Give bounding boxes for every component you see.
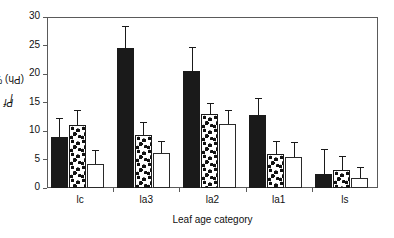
y-tick-label: 20 bbox=[29, 67, 40, 79]
error-bar-ls-solid-black bbox=[324, 149, 325, 174]
y-tick-label: 25 bbox=[29, 39, 40, 51]
x-axis-tick bbox=[246, 188, 247, 192]
error-bar-la3-open-white bbox=[161, 141, 162, 152]
error-bar-lc-dotted bbox=[77, 110, 78, 125]
error-bar-cap-la2-dotted bbox=[207, 103, 214, 104]
error-bar-cap-la1-open-white bbox=[291, 142, 298, 143]
y-axis-title-text: Pfl(Ph) % bbox=[3, 64, 17, 106]
y-tick-label: 15 bbox=[29, 96, 40, 108]
bar-ls-solid-black bbox=[315, 174, 332, 188]
error-bar-cap-la3-dotted bbox=[140, 122, 147, 123]
error-bar-cap-lc-open-white bbox=[92, 150, 99, 151]
bar-lc-open-white bbox=[87, 164, 104, 188]
error-bar-cap-la3-open-white bbox=[158, 141, 165, 142]
bar-la3-solid-black bbox=[117, 48, 134, 188]
error-bar-ls-open-white bbox=[360, 167, 361, 177]
bar-la1-dotted bbox=[267, 154, 284, 188]
x-axis-label-ls: ls bbox=[341, 194, 348, 205]
error-bar-cap-la1-solid-black bbox=[255, 98, 262, 99]
y-tick-label: 5 bbox=[34, 153, 40, 165]
x-axis-title: Leaf age category bbox=[47, 214, 378, 225]
error-bar-cap-la3-solid-black bbox=[122, 26, 129, 27]
bar-la2-dotted bbox=[201, 114, 218, 188]
error-bar-lc-solid-black bbox=[59, 118, 60, 137]
error-bar-cap-la1-dotted bbox=[273, 141, 280, 142]
error-bar-cap-ls-open-white bbox=[357, 167, 364, 168]
x-axis-tick bbox=[113, 188, 114, 192]
bars-layer bbox=[47, 17, 378, 188]
error-bar-cap-lc-dotted bbox=[74, 110, 81, 111]
error-bar-la3-dotted bbox=[143, 122, 144, 135]
bar-lc-solid-black bbox=[51, 137, 68, 188]
error-bar-la3-solid-black bbox=[125, 26, 126, 49]
bar-ls-open-white bbox=[351, 178, 368, 188]
error-bar-cap-ls-solid-black bbox=[321, 149, 328, 150]
error-bar-ls-dotted bbox=[342, 156, 343, 171]
error-bar-cap-lc-solid-black bbox=[56, 118, 63, 119]
bar-la1-solid-black bbox=[249, 115, 266, 188]
bar-lc-dotted bbox=[69, 125, 86, 188]
y-tick-label: 30 bbox=[29, 10, 40, 22]
x-axis-label-la2: la2 bbox=[206, 194, 219, 205]
x-axis-labels: lcla3la2la1ls bbox=[47, 194, 378, 210]
y-tick-label: 0 bbox=[34, 181, 40, 193]
error-bar-la2-dotted bbox=[210, 103, 211, 114]
bar-la3-open-white bbox=[153, 153, 170, 188]
error-bar-cap-la2-open-white bbox=[225, 110, 232, 111]
chart-figure: 051015202530 Pfl(Ph) % lcla3la2la1ls Lea… bbox=[0, 0, 394, 238]
error-bar-la1-solid-black bbox=[258, 98, 259, 115]
bar-ls-dotted bbox=[333, 170, 350, 188]
error-bar-la2-open-white bbox=[228, 110, 229, 123]
x-axis-tick bbox=[179, 188, 180, 192]
bar-la3-dotted bbox=[135, 135, 152, 188]
x-axis-label-la3: la3 bbox=[140, 194, 153, 205]
x-axis-label-la1: la1 bbox=[272, 194, 285, 205]
error-bar-la1-dotted bbox=[276, 141, 277, 154]
y-tick-label: 10 bbox=[29, 124, 40, 136]
x-axis-tick bbox=[312, 188, 313, 192]
error-bar-la2-solid-black bbox=[192, 47, 193, 72]
bar-la2-open-white bbox=[219, 124, 236, 188]
y-axis-title: Pfl(Ph) % bbox=[2, 0, 18, 171]
x-axis-label-lc: lc bbox=[76, 194, 83, 205]
error-bar-cap-ls-dotted bbox=[339, 156, 346, 157]
error-bar-la1-open-white bbox=[294, 142, 295, 156]
bar-la2-solid-black bbox=[183, 71, 200, 188]
bar-la1-open-white bbox=[285, 157, 302, 188]
error-bar-cap-la2-solid-black bbox=[189, 47, 196, 48]
error-bar-lc-open-white bbox=[95, 150, 96, 164]
